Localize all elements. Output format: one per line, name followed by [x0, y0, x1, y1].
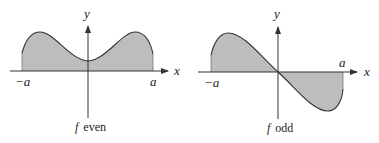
odd-left-bound-label: −a — [204, 75, 220, 90]
odd-caption-f: f — [267, 121, 272, 135]
even-x-axis-label: x — [173, 63, 180, 78]
even-left-bound-label: −a — [15, 74, 31, 89]
even-function-graph: y x −a a feven — [10, 6, 180, 134]
odd-caption: fodd — [267, 121, 293, 135]
odd-shaded-area-negative — [278, 72, 343, 111]
even-caption-f: f — [75, 120, 80, 134]
odd-function-graph: y x −a a fodd — [198, 6, 370, 135]
odd-shaded-area-positive — [211, 33, 278, 72]
odd-x-axis-label: x — [363, 64, 370, 79]
even-caption-word: even — [83, 120, 106, 134]
odd-caption-word: odd — [275, 121, 293, 135]
odd-right-bound-label: a — [339, 55, 346, 70]
even-right-bound-label: a — [150, 74, 157, 89]
odd-y-axis-label: y — [272, 6, 280, 21]
even-odd-functions-diagram: y x −a a feven y x −a a fodd — [0, 0, 379, 143]
even-y-axis-label: y — [82, 6, 90, 21]
even-caption: feven — [75, 120, 106, 134]
